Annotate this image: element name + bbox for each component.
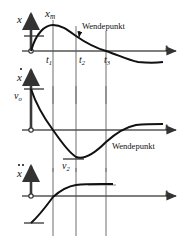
guide-label-t3: t3 [104,55,110,66]
acceleration-origin-marker [29,194,33,198]
initial-velocity-label: vo [14,91,22,102]
displacement-y-axis-label: x [17,14,22,25]
displacement-time-axis-label: t [165,43,168,53]
acceleration-dot-accent-left [18,164,20,166]
guide-label-t1: t1 [46,55,52,66]
velocity-y-axis-label: x [17,72,22,83]
acceleration-dot-accent-right [22,164,24,166]
displacement-inflection-leader [79,31,80,37]
acceleration-y-axis-label: x [17,168,22,179]
panel-acceleration [22,166,176,223]
acceleration-time-axis-label: t [165,188,168,198]
velocity-dot-accent [20,68,22,70]
velocity-origin-marker [29,128,33,132]
acceleration-curve [31,184,113,223]
velocity-time-axis-label: t [165,122,168,132]
physics-kinematics-figure: x xm Wendepunkt t t1 t2 t3 x vo v2 Wende… [0,0,196,241]
peak-value-label: xm [45,8,55,21]
guide-label-t2: t2 [79,55,85,66]
displacement-inflection-label: Wendepunkt [82,22,125,31]
velocity-inflection-label: Wendepunkt [112,142,155,151]
minimum-velocity-label: v2 [62,161,70,172]
